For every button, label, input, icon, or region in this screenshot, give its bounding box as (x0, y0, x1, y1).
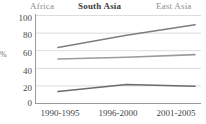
y-tick-20: 20 (6, 84, 32, 93)
x-tick-1990-1995: 1990-1995 (32, 106, 88, 120)
plot-svg (36, 15, 201, 103)
legend-item-south-asia: South Asia (78, 0, 121, 13)
x-tick-1996-2000: 1996-2000 (90, 106, 146, 120)
y-tick-0: 0 (6, 99, 32, 108)
x-axis-line (35, 103, 201, 104)
y-tick-60: 60 (6, 49, 32, 58)
y-axis-tick-labels: 100 80 60 40 20 0 (6, 0, 32, 124)
line-chart: Africa South Asia East Asia % 100 80 60 … (0, 0, 206, 124)
series-lines (58, 25, 195, 92)
y-tick-100: 100 (6, 14, 32, 23)
x-tick-2001-2005: 2001-2005 (148, 106, 204, 120)
y-tick-40: 40 (6, 67, 32, 76)
plot-area (36, 15, 201, 103)
legend-item-africa: Africa (30, 0, 54, 13)
y-tick-80: 80 (6, 31, 32, 40)
chart-legend: Africa South Asia East Asia (28, 0, 206, 14)
gridlines (36, 16, 201, 86)
series-line-east-asia (58, 25, 195, 48)
legend-item-east-asia: East Asia (156, 0, 192, 13)
series-line-south-asia (58, 55, 195, 59)
x-axis-tick-labels: 1990-1995 1996-2000 2001-2005 (30, 106, 206, 122)
